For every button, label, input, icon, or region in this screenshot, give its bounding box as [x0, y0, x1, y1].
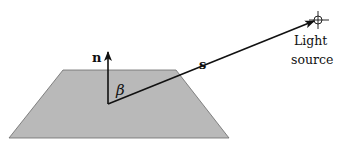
normal-label: n	[92, 50, 102, 65]
light-vector-arrow	[108, 21, 314, 104]
light-vector-label: s	[199, 57, 206, 72]
light-source-label-line2: source	[291, 52, 333, 67]
light-source-crosshair-icon	[309, 11, 329, 29]
diagram-canvas: n β s Light source	[0, 0, 340, 145]
angle-label: β	[115, 81, 125, 99]
light-source-label-line1: Light	[294, 33, 327, 48]
